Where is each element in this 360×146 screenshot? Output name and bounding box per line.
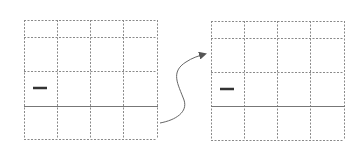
right-grid bbox=[211, 21, 345, 141]
left-grid bbox=[24, 20, 158, 140]
diagram-canvas bbox=[0, 0, 360, 146]
transform-arrow-icon bbox=[160, 54, 205, 123]
